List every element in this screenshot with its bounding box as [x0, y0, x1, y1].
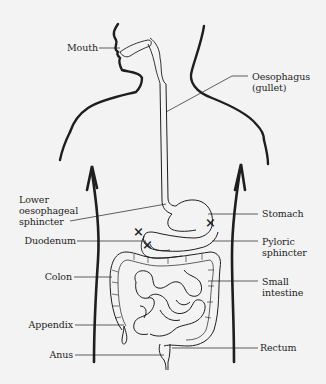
torso-right-outline [264, 140, 268, 164]
body-right-side-arrow [232, 170, 240, 362]
label-small-intestine: Small intestine [262, 276, 303, 298]
label-oesophagus: Oesophagus (gullet) [252, 71, 310, 93]
label-pyloric-line1: Pyloric [262, 236, 307, 247]
label-rectum: Rectum [260, 342, 296, 353]
label-anus: Anus [49, 349, 73, 360]
colon-haustra [112, 254, 214, 318]
label-lower-oesophageal-sphincter: Lower oesophageal sphincter [19, 194, 78, 227]
small-intestine-coils [134, 270, 205, 336]
label-small-intestine-line2: intestine [262, 287, 303, 298]
label-stomach: Stomach [262, 208, 303, 219]
marker-lower-oesophageal-x: × [133, 226, 144, 237]
label-appendix: Appendix [29, 319, 73, 330]
rectum-outline [159, 344, 170, 370]
label-oesophagus-line1: Oesophagus [252, 71, 310, 82]
label-lower-oesophageal-line3: sphincter [19, 216, 78, 227]
face-profile-outline [70, 24, 142, 132]
torso-left-outline [60, 132, 70, 160]
appendix-shape [122, 326, 127, 344]
marker-pyloric-x: × [205, 217, 216, 228]
label-duodenum: Duodenum [24, 235, 76, 246]
label-colon: Colon [45, 271, 72, 282]
marker-duodenum-x: × [142, 239, 153, 250]
oesophagus-tube [160, 84, 176, 214]
label-oesophagus-line2: (gullet) [252, 82, 310, 93]
label-lower-oesophageal-line2: oesophageal [19, 205, 78, 216]
leader-lines [70, 48, 258, 355]
label-pyloric-sphincter: Pyloric sphincter [262, 236, 307, 258]
label-mouth: Mouth [67, 42, 98, 53]
oral-cavity [120, 40, 151, 57]
label-pyloric-line2: sphincter [262, 247, 307, 258]
label-small-intestine-line1: Small [262, 276, 303, 287]
label-lower-oesophageal-line1: Lower [19, 194, 78, 205]
body-left-side-arrow [92, 172, 99, 362]
